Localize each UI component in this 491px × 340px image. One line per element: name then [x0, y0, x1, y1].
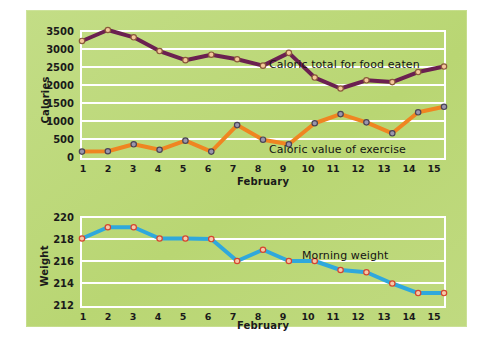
weight-series-svg: [26, 200, 467, 327]
data-point: [209, 236, 214, 241]
chart-panel-background: Calories 3500 3000 2500 2000 1500 1000 5…: [26, 10, 467, 327]
data-point: [260, 137, 265, 142]
data-point: [234, 122, 239, 127]
weight-xtick: 14: [398, 311, 420, 322]
weight-xtick: 13: [373, 311, 395, 322]
data-point: [441, 290, 446, 295]
data-point: [105, 149, 110, 154]
weight-xtick: 1: [72, 311, 94, 322]
data-point: [209, 52, 214, 57]
data-point: [79, 236, 84, 241]
data-point: [312, 121, 317, 126]
calories-xtick: 12: [347, 163, 369, 174]
data-point: [338, 86, 343, 91]
weight-xtick: 11: [322, 311, 344, 322]
data-point: [338, 267, 343, 272]
data-point: [157, 236, 162, 241]
weight-xtick: 2: [97, 311, 119, 322]
data-point: [157, 147, 162, 152]
data-point: [209, 149, 214, 154]
weight-xtick: 12: [347, 311, 369, 322]
calories-xtick: 10: [297, 163, 319, 174]
data-point: [183, 236, 188, 241]
weight-xtick: 3: [122, 311, 144, 322]
data-point: [79, 38, 84, 43]
data-point: [338, 111, 343, 116]
calories-xtick: 3: [122, 163, 144, 174]
weight-annotation: Morning weight: [302, 249, 389, 262]
data-point: [390, 79, 395, 84]
data-point: [183, 138, 188, 143]
calories-xtick: 1: [72, 163, 94, 174]
calories-x-axis-title: February: [203, 176, 323, 187]
data-point: [441, 104, 446, 109]
data-point: [105, 27, 110, 32]
data-point: [364, 120, 369, 125]
data-point: [234, 57, 239, 62]
data-point: [441, 64, 446, 69]
weight-xtick: 15: [423, 311, 445, 322]
data-point: [415, 290, 420, 295]
calories-xtick: 9: [272, 163, 294, 174]
data-point: [260, 63, 265, 68]
calories-chart: Calories 3500 3000 2500 2000 1500 1000 5…: [26, 10, 467, 195]
data-point: [183, 57, 188, 62]
calories-xtick: 7: [222, 163, 244, 174]
data-point: [131, 142, 136, 147]
data-point: [415, 110, 420, 115]
weight-x-axis-title: February: [203, 320, 323, 331]
data-point: [364, 78, 369, 83]
calories-xtick: 8: [247, 163, 269, 174]
weight-xtick: 5: [172, 311, 194, 322]
data-point: [234, 258, 239, 263]
calories-xtick: 15: [423, 163, 445, 174]
calories-xtick: 11: [322, 163, 344, 174]
calories-exercise-annotation: Caloric value of exercise: [269, 143, 406, 156]
data-point: [390, 131, 395, 136]
calories-xtick: 14: [398, 163, 420, 174]
data-point: [390, 281, 395, 286]
data-point: [286, 50, 291, 55]
weight-chart: Weight 220 218 216 214 212 Morning weigh…: [26, 200, 467, 327]
calories-xtick: 2: [97, 163, 119, 174]
data-point: [286, 258, 291, 263]
data-point: [105, 225, 110, 230]
data-point: [364, 270, 369, 275]
data-point: [260, 247, 265, 252]
data-point: [312, 75, 317, 80]
series-1: [79, 225, 446, 296]
data-point: [157, 48, 162, 53]
calories-xtick: 5: [172, 163, 194, 174]
data-point: [131, 225, 136, 230]
weight-xtick: 4: [147, 311, 169, 322]
calories-xtick: 4: [147, 163, 169, 174]
data-point: [131, 35, 136, 40]
calories-xtick: 6: [197, 163, 219, 174]
calories-total-annotation: Caloric total for food eaten: [269, 58, 420, 71]
calories-xtick: 13: [373, 163, 395, 174]
data-point: [79, 149, 84, 154]
figure-root: Calories 3500 3000 2500 2000 1500 1000 5…: [0, 0, 491, 340]
